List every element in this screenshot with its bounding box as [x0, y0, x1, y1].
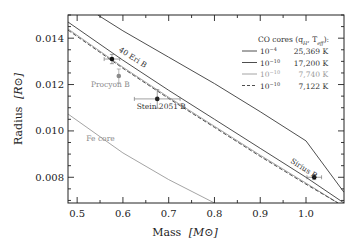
x-tick-label: 0.7: [161, 208, 177, 219]
legend-entry: 10−107,740 K: [242, 69, 328, 79]
legend-qh: 10−10: [260, 81, 280, 91]
x-tick-label: 0.6: [115, 208, 131, 219]
annotation-sirius-b: Sirius B: [289, 156, 320, 180]
legend: CO cores (qH, Teff):10−425,369 K10−1017,…: [242, 35, 329, 91]
legend-qh: 10−10: [260, 69, 280, 79]
x-axis-label: Mass [M⊙]: [152, 226, 218, 239]
legend-teff: 7,740 K: [299, 70, 329, 79]
x-tick-label: 1.0: [298, 208, 314, 219]
y-axis-label: Radius [R⊙]: [12, 72, 25, 145]
legend-qh: 10−10: [260, 58, 280, 68]
legend-entry: 10−425,369 K: [242, 46, 328, 56]
curve-fe-core: [68, 114, 215, 203]
legend-qh: 10−4: [260, 46, 277, 56]
x-tick-label: 0.5: [69, 208, 85, 219]
x-tick-label: 0.8: [207, 208, 223, 219]
mass-radius-chart: 0.50.60.70.80.91.00.0080.0100.0120.014 4…: [0, 0, 361, 243]
legend-entry: 10−1017,200 K: [242, 58, 328, 68]
legend-teff: 7,122 K: [299, 82, 329, 91]
annotations: 40 Eri BProcyon BStein 2051 BSirius BFe …: [86, 45, 319, 180]
annotation-stein-2051-b: Stein 2051 B: [137, 102, 187, 111]
y-tick-label: 0.010: [35, 125, 64, 136]
legend-teff: 25,369 K: [294, 47, 329, 56]
annotation-fe-core: Fe core: [86, 134, 115, 143]
y-tick-label: 0.008: [35, 172, 64, 183]
y-tick-label: 0.014: [35, 33, 64, 44]
curve-co-core-qh-1e-10-7-122-k: [68, 30, 338, 203]
y-tick-label: 0.012: [35, 79, 64, 90]
axes-frame: 0.50.60.70.80.91.00.0080.0100.0120.014: [35, 15, 344, 219]
x-tick-label: 0.9: [252, 208, 268, 219]
legend-teff: 17,200 K: [294, 59, 329, 68]
annotation-procyon-b: Procyon B: [91, 80, 130, 89]
legend-entry: 10−107,122 K: [242, 81, 328, 91]
